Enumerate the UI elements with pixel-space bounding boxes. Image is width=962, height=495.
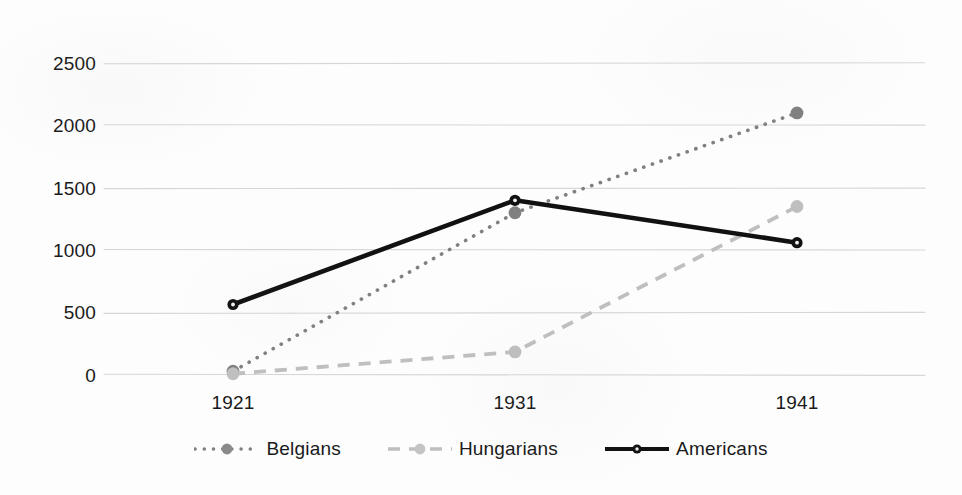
legend-label-americans: Americans	[676, 438, 768, 460]
legend-label-hungarians: Hungarians	[459, 438, 558, 460]
chart-legend: Belgians Hungarians Americans	[0, 438, 962, 460]
legend-swatch-hungarians	[387, 440, 453, 458]
legend-label-belgians: Belgians	[266, 438, 340, 460]
y-tick-label-2500: 2500	[8, 53, 96, 75]
x-tick-label-1921: 1921	[183, 392, 283, 414]
legend-item-hungarians[interactable]: Hungarians	[387, 438, 558, 460]
x-tick-label-1941: 1941	[747, 392, 847, 414]
chart-plot-area	[0, 0, 962, 495]
legend-item-belgians[interactable]: Belgians	[194, 438, 340, 460]
y-tick-label-1500: 1500	[8, 178, 96, 200]
y-tick-label-0: 0	[8, 365, 96, 387]
legend-swatch-belgians	[194, 440, 260, 458]
series-layer	[227, 107, 804, 381]
y-tick-label-2000: 2000	[8, 115, 96, 137]
chart-page: 2500 2000 1500 1000 500 0 1921 1931 1941…	[0, 0, 962, 495]
y-tick-label-1000: 1000	[8, 240, 96, 262]
legend-item-americans[interactable]: Americans	[604, 438, 768, 460]
legend-swatch-americans	[604, 440, 670, 458]
x-tick-label-1931: 1931	[465, 392, 565, 414]
y-tick-label-500: 500	[8, 302, 96, 324]
